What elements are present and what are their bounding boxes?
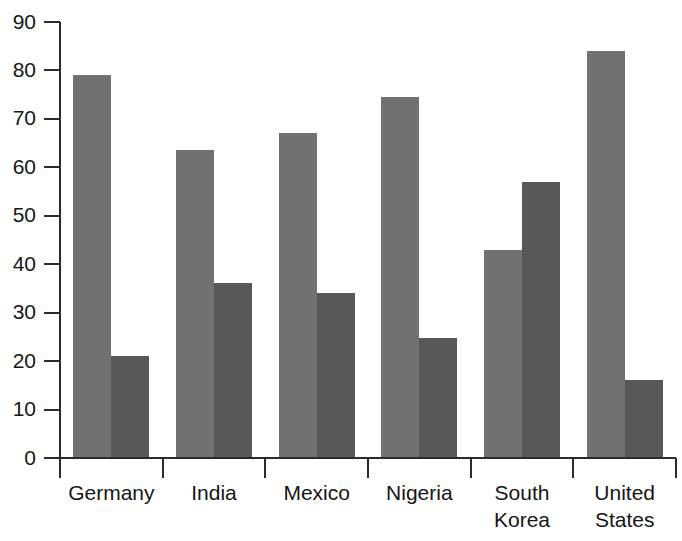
bar xyxy=(522,182,560,458)
chart-canvas: 0102030405060708090 GermanyIndiaMexicoNi… xyxy=(0,0,682,541)
x-category-label: Korea xyxy=(494,508,550,531)
x-category-label: States xyxy=(595,508,655,531)
y-tick-label: 20 xyxy=(13,349,36,372)
bar xyxy=(214,283,252,458)
bar xyxy=(317,293,355,458)
y-tick-label: 90 xyxy=(13,10,36,33)
x-axis xyxy=(44,458,676,478)
bar xyxy=(381,97,419,458)
bar xyxy=(484,250,522,458)
bar xyxy=(419,338,457,458)
y-tick-label: 50 xyxy=(13,203,36,226)
y-tick-label: 70 xyxy=(13,106,36,129)
y-tick-label: 60 xyxy=(13,155,36,178)
bar xyxy=(625,380,663,458)
x-category-label: United xyxy=(594,481,655,504)
bar xyxy=(111,356,149,458)
bar xyxy=(587,51,625,458)
x-category-label: Nigeria xyxy=(386,481,453,504)
bar xyxy=(279,133,317,458)
bar xyxy=(176,150,214,458)
y-tick-label: 10 xyxy=(13,397,36,420)
y-tick-label: 0 xyxy=(24,446,36,469)
x-category-label: India xyxy=(191,481,237,504)
y-tick-labels: 0102030405060708090 xyxy=(13,10,36,469)
y-axis xyxy=(44,22,60,478)
y-tick-label: 80 xyxy=(13,58,36,81)
y-tick-label: 30 xyxy=(13,300,36,323)
x-category-label: Mexico xyxy=(283,481,350,504)
x-category-label: Germany xyxy=(68,481,155,504)
x-category-labels: GermanyIndiaMexicoNigeriaSouthKoreaUnite… xyxy=(68,481,655,531)
bar xyxy=(73,75,111,458)
y-tick-label: 40 xyxy=(13,252,36,275)
bars-layer xyxy=(73,51,662,458)
x-category-label: South xyxy=(495,481,550,504)
bar-chart: 0102030405060708090 GermanyIndiaMexicoNi… xyxy=(0,0,682,541)
